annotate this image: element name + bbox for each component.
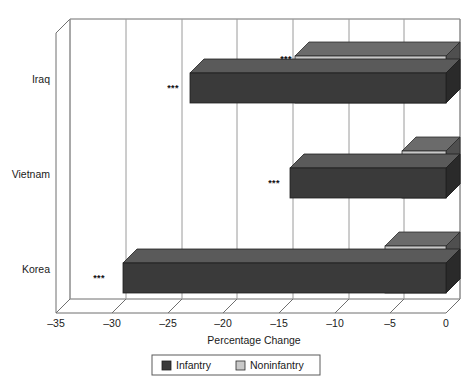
- x-axis-title: Percentage Change: [207, 334, 301, 346]
- y-category-labels: Iraq Vietnam Korea: [12, 73, 51, 275]
- legend-label-noninfantry: Noninfantry: [250, 359, 304, 371]
- chart-canvas: *** *** *** ***: [0, 0, 472, 382]
- sig-vietnam-infantry: ***: [268, 178, 280, 188]
- sig-korea-infantry: ***: [93, 273, 105, 283]
- chart-legend: Infantry Noninfantry: [152, 355, 320, 375]
- category-label-iraq: Iraq: [32, 73, 50, 85]
- legend-swatch-noninfantry: [236, 361, 245, 370]
- x-axis-ticks: [56, 299, 460, 313]
- x-tick-label-zero: 0: [443, 317, 449, 329]
- sig-iraq-noninfantry: ***: [280, 54, 292, 64]
- x-tick-label-minus5: –5: [384, 317, 396, 329]
- x-tick-labels: –35 –30 –25 –20 –15 –10 –5 0: [47, 317, 449, 329]
- category-label-korea: Korea: [22, 263, 50, 275]
- bar-iraq-infantry: [190, 59, 460, 103]
- legend-label-infantry: Infantry: [176, 359, 212, 371]
- bar-vietnam-infantry: [290, 154, 460, 198]
- x-tick-label-minus30: –30: [103, 317, 121, 329]
- x-tick-label-minus15: –15: [270, 317, 288, 329]
- bar-chart: *** *** *** ***: [0, 0, 472, 382]
- x-tick-label-minus20: –20: [214, 317, 232, 329]
- sig-iraq-infantry: ***: [167, 83, 179, 93]
- bar-korea-infantry: [123, 249, 460, 293]
- legend-swatch-infantry: [162, 361, 171, 370]
- x-tick-label-minus35: –35: [47, 317, 65, 329]
- category-label-vietnam: Vietnam: [12, 168, 51, 180]
- x-tick-label-minus10: –10: [326, 317, 344, 329]
- x-tick-label-minus25: –25: [159, 317, 177, 329]
